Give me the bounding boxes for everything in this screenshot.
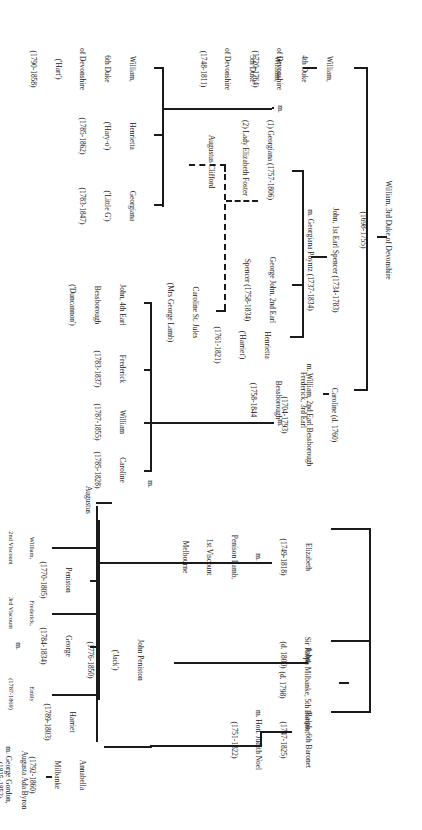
text-line: William, [324, 48, 332, 90]
text-line: (1) Georgiana (1757-1806) [265, 120, 273, 240]
text-line: Frederick [117, 345, 125, 393]
text-line: Penison Lamb, [230, 522, 238, 592]
connector-line [174, 662, 308, 664]
text-line: 1st Viscount [205, 522, 213, 592]
text-line: Milbanke [53, 735, 61, 815]
text-line: ('Jack') [111, 630, 119, 690]
person-georgiana-little-g: Georgiana ('Little G') (1783-1847) [62, 182, 152, 230]
sibling-bar [302, 170, 304, 336]
text-line: William [117, 398, 125, 446]
connector-line [154, 204, 164, 206]
connector-line [331, 528, 371, 530]
text-line: (1776-1850) [86, 630, 94, 690]
connector-line [154, 67, 164, 69]
text-line: Melbourne [180, 522, 188, 592]
person-frederick-bessborough: Frederick (1783-1837) [76, 345, 142, 393]
connector-line [96, 502, 112, 504]
person-wives-of-5th-duke: (1) Georgiana (1757-1806) (2) Lady Eliza… [224, 120, 290, 240]
text-line: 2nd Viscount [8, 527, 15, 569]
connector-line [311, 256, 327, 258]
text-line: John, 4th Earl [117, 280, 125, 330]
connector-line [144, 369, 152, 371]
text-line: William, [127, 45, 135, 93]
marriage-line [272, 107, 274, 109]
dashed-line [224, 164, 226, 310]
connector-line [331, 711, 371, 713]
connector-line [154, 134, 164, 136]
text-line: Frederick, 3rd Earl [298, 360, 306, 440]
person-augustus-clifford: Augustus Clifford [207, 135, 215, 215]
connector-line [52, 547, 100, 549]
connector-line [262, 731, 292, 733]
person-augusta-ada-byron: Augusta Ada Byron (1815-1852) [0, 735, 44, 825]
person-frederick-3rd-earl-bessborough: Frederick, 3rd Earl Bessborough (1758-18… [233, 360, 323, 440]
connector-line [52, 613, 100, 615]
connector-line [260, 731, 262, 746]
connector-line [238, 562, 272, 564]
text-line: ('Harriet') [238, 320, 246, 370]
text-line: (1790-1858) [29, 45, 37, 93]
dashed-line [226, 200, 258, 202]
text-line: Annabella [77, 735, 85, 815]
connector-line [46, 776, 52, 778]
dashed-line [189, 164, 226, 166]
connector-line [354, 67, 368, 69]
text-line: of Devonshire [78, 45, 86, 93]
person-name: William, 3rd Duke of Devonshire [383, 175, 391, 285]
text-line: Ralph, 6th Baronet [303, 690, 311, 790]
marriage-line [162, 108, 272, 110]
person-augustus-lamb: Augustus [84, 480, 92, 520]
connector-line [150, 745, 262, 747]
text-line: (1783-1837) [93, 345, 101, 393]
text-line: m. [14, 624, 22, 668]
text-line: m. [254, 522, 262, 592]
text-line: Caroline [117, 446, 125, 494]
connector-line [303, 67, 317, 69]
text-line: ('Duncannon') [68, 280, 76, 330]
connector-line [98, 562, 238, 564]
person-william-5th-duke: William, 5th Duke of Devonshire (1748-18… [182, 48, 297, 90]
person-john-peniston-jack: John Peniston ('Jack') (1776-1850) [70, 630, 160, 690]
text-line: m. Georgiana Poyntz (1737-1834) [306, 190, 314, 330]
text-line: Bessborough [274, 360, 282, 440]
text-line: Georgiana [127, 182, 135, 230]
connector-line [290, 336, 304, 338]
text-line: (1815-1852) [0, 735, 3, 825]
text-line: Caroline (d. 1760) [329, 355, 337, 475]
text-line: (1784-1834) [39, 624, 47, 668]
text-line: (1785-1828) [93, 446, 101, 494]
text-line: 5th Duke [248, 48, 256, 90]
marriage-mark: m. [146, 479, 154, 489]
connector-line [354, 389, 368, 391]
connector-line [339, 682, 349, 684]
person-henrietta-hary-o: Henrietta ('Hary-o') (1785-1862) [62, 112, 152, 160]
person-william-6th-duke: William, 6th Duke of Devonshire ('Hart')… [13, 45, 152, 93]
text-line: ('Hart') [54, 45, 62, 93]
text-line: Elizabeth [303, 522, 311, 592]
connector-line [144, 470, 152, 472]
family-tree-diagram: William, 3rd Duke of Devonshire (1698-17… [0, 0, 422, 830]
text-line: ('Hary-o') [103, 112, 111, 160]
text-line: (Mrs George Lamb) [166, 275, 174, 350]
text-line: (1749-1818) [279, 522, 287, 592]
sibling-bar [369, 528, 371, 712]
person-elizabeth-milbanke: Elizabeth (1749-1818) m. Penison Lamb, 1… [164, 522, 328, 592]
sibling-bar [162, 67, 164, 207]
connector-line [90, 580, 100, 582]
text-line: John, 1st Earl Spencer (1734-1783) [330, 190, 338, 330]
connector-line [52, 694, 100, 696]
sibling-bar [366, 67, 368, 391]
text-line: (1747-1825) [279, 690, 287, 790]
connector-line [323, 393, 329, 395]
text-line: 6th Duke [103, 45, 111, 93]
text-line: (d. 1800) [279, 630, 287, 680]
text-line: ('Little G') [103, 182, 111, 230]
text-line: Peniston [63, 558, 71, 602]
text-line: Bessborough [93, 280, 101, 330]
text-line: (1787-1869) [8, 673, 15, 715]
marriage-line [152, 422, 274, 424]
text-line: (1748-1811) [199, 48, 207, 90]
connector-line [144, 422, 152, 424]
text-line: of Devonshire [223, 48, 231, 90]
text-line: John Peniston [135, 630, 143, 690]
